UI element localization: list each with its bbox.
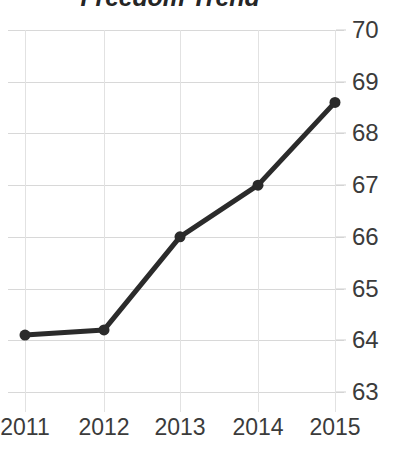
freedom-trend-chart: Freedom Trend 7069686766656463 201120122… (0, 0, 399, 457)
y-tick-label-67: 67 (352, 171, 396, 199)
y-tick-label-70: 70 (352, 16, 396, 44)
x-tick-label-2013: 2013 (140, 414, 220, 441)
y-tick-mark-69 (336, 81, 346, 82)
y-tick-label-69: 69 (352, 68, 396, 96)
y-tick-label-68: 68 (352, 119, 396, 147)
data-point-2013 (175, 231, 186, 242)
plot-area (8, 30, 344, 392)
y-tick-mark-68 (336, 133, 346, 134)
y-tick-label-65: 65 (352, 275, 396, 303)
y-tick-mark-65 (336, 288, 346, 289)
x-tick-label-2014: 2014 (218, 414, 298, 441)
y-tick-mark-70 (336, 30, 346, 31)
series-polyline (25, 102, 335, 335)
y-tick-label-63: 63 (352, 378, 396, 406)
x-tick-label-2015: 2015 (295, 414, 375, 441)
data-point-2012 (99, 324, 110, 335)
y-tick-mark-64 (336, 340, 346, 341)
chart-title: Freedom Trend (0, 0, 340, 12)
y-tick-mark-67 (336, 185, 346, 186)
y-tick-label-64: 64 (352, 326, 396, 354)
data-point-2015 (330, 97, 341, 108)
series-markers (20, 97, 341, 341)
y-tick-label-66: 66 (352, 223, 396, 251)
data-point-2011 (20, 330, 31, 341)
x-tick-label-2011: 2011 (0, 414, 65, 441)
y-tick-mark-63 (336, 392, 346, 393)
gridline-y-63 (8, 392, 344, 393)
x-tick-label-2012: 2012 (64, 414, 144, 441)
data-point-2014 (253, 180, 264, 191)
line-series (8, 30, 344, 392)
y-tick-mark-66 (336, 236, 346, 237)
